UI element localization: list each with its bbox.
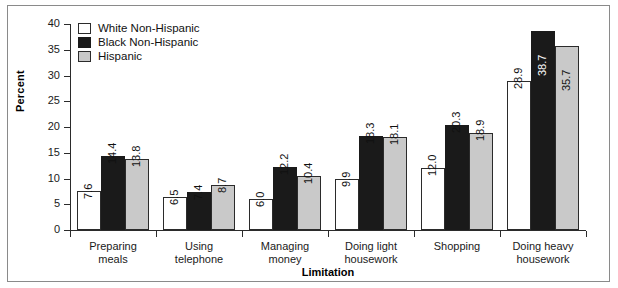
bar-value-label: 6.0 <box>255 192 266 207</box>
bar <box>101 156 125 230</box>
category-label-line: housework <box>328 253 414 266</box>
y-axis-tick-label: 30 <box>38 70 60 81</box>
x-axis-category-label: Managingmoney <box>242 240 328 266</box>
category-label-line: housework <box>500 253 586 266</box>
bar-value-label: 9.9 <box>341 172 352 187</box>
x-axis-tick <box>328 231 329 237</box>
plot-area: 0510152025303540 Percent 7.614.413.86.57… <box>0 0 618 288</box>
y-axis-tick-label: 10 <box>38 173 60 184</box>
bar-value-label: 7.4 <box>193 185 204 200</box>
y-axis-tick-label: 0 <box>38 224 60 235</box>
bar-value-label: 13.8 <box>131 146 142 167</box>
legend-item: Black Non-Hispanic <box>78 35 200 49</box>
y-axis-line <box>70 24 71 231</box>
x-axis-category-label: Shopping <box>414 240 500 253</box>
bar <box>445 125 469 230</box>
bar-value-label: 35.7 <box>561 70 572 91</box>
chart-legend: White Non-HispanicBlack Non-HispanicHisp… <box>78 21 200 63</box>
y-axis-tick-label: 5 <box>38 198 60 209</box>
bar-value-label: 28.9 <box>513 68 524 89</box>
legend-label: White Non-Hispanic <box>98 22 200 34</box>
x-axis-category-label: Doing heavyhousework <box>500 240 586 266</box>
category-label-line: Shopping <box>414 240 500 253</box>
category-label-line: meals <box>70 253 156 266</box>
y-axis-tick <box>64 101 70 102</box>
bar <box>383 137 407 230</box>
bar-value-label: 6.5 <box>169 189 180 204</box>
category-label-line: Preparing <box>70 240 156 253</box>
bar <box>421 168 445 230</box>
bar-value-label: 8.7 <box>217 178 228 193</box>
bar-value-label: 18.9 <box>475 119 486 140</box>
category-label-line: money <box>242 253 328 266</box>
y-axis-tick-label: 20 <box>38 121 60 132</box>
bar-value-label: 20.3 <box>451 112 462 133</box>
bar <box>297 176 321 230</box>
x-axis-title: Limitation <box>70 266 586 278</box>
y-axis-tick-label: 25 <box>38 95 60 106</box>
y-axis-tick <box>64 179 70 180</box>
category-label-line: Doing light <box>328 240 414 253</box>
bar-value-label: 38.7 <box>537 54 548 75</box>
legend-swatch-black <box>78 37 91 48</box>
y-axis-tick <box>64 127 70 128</box>
figure-bar-chart: 0510152025303540 Percent 7.614.413.86.57… <box>0 0 618 288</box>
x-axis-tick <box>156 231 157 237</box>
x-axis-category-label: Doing lighthousework <box>328 240 414 266</box>
bar <box>273 167 297 230</box>
legend-label: Black Non-Hispanic <box>98 36 198 48</box>
category-label-line: telephone <box>156 253 242 266</box>
y-axis-tick-label: 35 <box>38 44 60 55</box>
x-axis-category-label: Preparingmeals <box>70 240 156 266</box>
x-axis-tick <box>242 231 243 237</box>
y-axis-tick <box>64 76 70 77</box>
category-label-line: Using <box>156 240 242 253</box>
x-axis-category-label: Usingtelephone <box>156 240 242 266</box>
bar <box>507 81 531 230</box>
x-axis-tick <box>70 231 71 237</box>
bar-value-label: 18.3 <box>365 122 376 143</box>
x-axis-tick <box>586 231 587 237</box>
x-axis-tick <box>500 231 501 237</box>
category-label-line: Managing <box>242 240 328 253</box>
x-axis-tick <box>414 231 415 237</box>
legend-item: Hispanic <box>78 49 200 63</box>
y-axis-tick-label: 40 <box>38 18 60 29</box>
bar-value-label: 14.4 <box>107 142 118 163</box>
legend-item: White Non-Hispanic <box>78 21 200 35</box>
bar-value-label: 12.2 <box>279 154 290 175</box>
bar-value-label: 18.1 <box>389 123 400 144</box>
bar-value-label: 10.4 <box>303 163 314 184</box>
y-axis-title: Percent <box>14 70 26 112</box>
bar <box>359 136 383 230</box>
bar <box>469 133 493 230</box>
y-axis-tick <box>64 50 70 51</box>
y-axis-tick <box>64 24 70 25</box>
legend-label: Hispanic <box>98 50 142 62</box>
legend-swatch-gray <box>78 51 91 62</box>
legend-swatch-white <box>78 23 91 34</box>
y-axis-tick <box>64 153 70 154</box>
category-label-line: Doing heavy <box>500 240 586 253</box>
y-axis-tick-label: 15 <box>38 147 60 158</box>
bar-value-label: 12.0 <box>427 155 438 176</box>
y-axis-tick <box>64 204 70 205</box>
bar-value-label: 7.6 <box>83 184 94 199</box>
bar <box>125 159 149 230</box>
